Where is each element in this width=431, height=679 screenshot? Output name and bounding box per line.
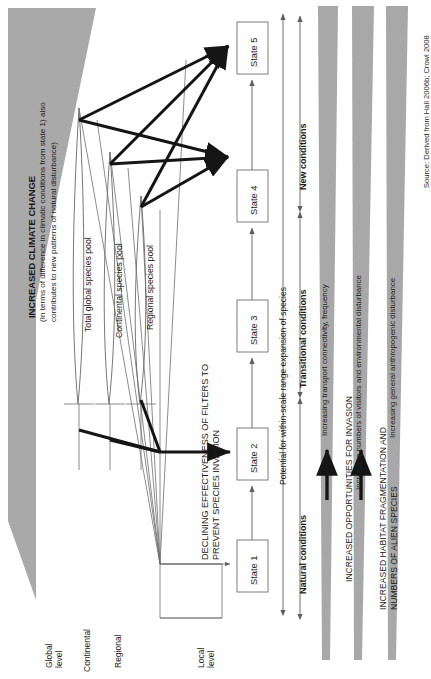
scale-level-regional-portrait: Regional bbox=[113, 634, 123, 668]
wedge-visitors-gradient-label-portrait: Increasing numbers of visitors and envir… bbox=[354, 275, 363, 490]
scale-level-local-line1-portrait: Local bbox=[196, 648, 206, 668]
condition-label-new-portrait: New conditions bbox=[298, 123, 308, 190]
wedge-visitors-heading-line1-portrait: INCREASED HABITAT FRAGMENTATION AND bbox=[378, 427, 388, 610]
portrait-graphics bbox=[0, 0, 431, 679]
figure-title-portrait: INCREASED CLIMATE CHANGE bbox=[26, 176, 37, 318]
condition-label-transitional-portrait: Transitional conditions bbox=[298, 289, 308, 388]
species-pool-label-regional-portrait: Regional species pool bbox=[145, 245, 155, 330]
scale-level-global-line2-portrait: level bbox=[54, 651, 64, 668]
state-label-state-3[interactable]: State 3 bbox=[249, 316, 259, 345]
filters-caption-line2-portrait: PREVENT SPECIES INVASION bbox=[211, 430, 221, 560]
species-pool-label-continental-portrait: Continental species pool bbox=[114, 243, 124, 338]
species-pool-label-global-portrait: Total global species pool bbox=[83, 237, 93, 332]
state-label-state-2[interactable]: State 2 bbox=[249, 444, 259, 473]
wedge-anthropogenic-gradient-label-portrait: Increasing general anthropogenic disturb… bbox=[388, 278, 397, 438]
scale-level-global-line1-portrait: Global bbox=[44, 643, 54, 668]
scale-level-local-line2-portrait: level bbox=[206, 651, 216, 668]
figure-subtitle-line1-portrait: (In terms of difference in climatic cond… bbox=[38, 102, 47, 322]
wedge-visitors-heading-line2-portrait: NUMBERS OF ALIEN SPECIES bbox=[389, 486, 399, 610]
figure-portrait: INCREASED CLIMATE CHANGE (In terms of di… bbox=[0, 0, 431, 679]
scale-level-continental-portrait: Continental bbox=[82, 629, 92, 672]
state-label-state-1[interactable]: State 1 bbox=[249, 556, 259, 585]
state-label-state-5[interactable]: State 5 bbox=[249, 38, 259, 67]
filters-caption-line1-portrait: DECLINING EFFECTIVENESS OF FILTERS TO bbox=[200, 364, 210, 560]
wedge-transport-heading-portrait: INCREASED OPPORTUNITIES FOR INVASION bbox=[344, 396, 354, 582]
wedge-transport-gradient-label-portrait: Increasing transport connectivity, frequ… bbox=[320, 284, 329, 436]
figure-source-portrait: Source: Derived from Hall 2006b; Crowl 2… bbox=[422, 35, 431, 188]
condition-label-natural-portrait: Natural conditions bbox=[298, 515, 308, 594]
state-label-state-4[interactable]: State 4 bbox=[249, 186, 259, 215]
potential-axis-label-portrait: Potential for within-scale range expansi… bbox=[278, 287, 288, 485]
figure-subtitle-line2-portrait: contributes to new patterns of natural d… bbox=[49, 142, 58, 322]
